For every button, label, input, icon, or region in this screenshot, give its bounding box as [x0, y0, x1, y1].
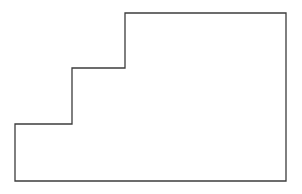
staircase-polygon-svg	[0, 0, 302, 194]
figure-canvas	[0, 0, 302, 194]
staircase-polygon-outline	[15, 13, 286, 181]
